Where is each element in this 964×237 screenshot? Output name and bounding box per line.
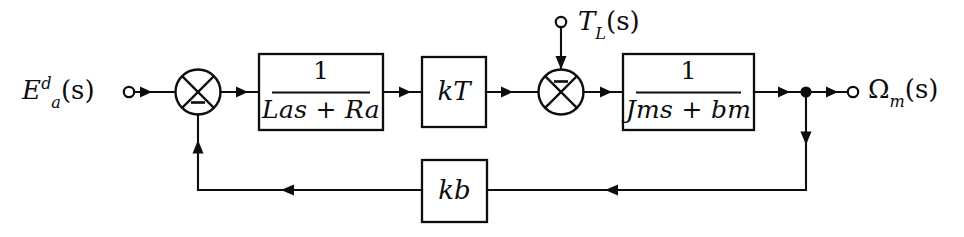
load-torque-base: T	[578, 6, 595, 36]
torque-constant-block-label: kT	[422, 78, 486, 104]
mechanical-block-denominator: Jms + bm	[623, 97, 754, 122]
input-terminal-armature-voltage	[124, 87, 134, 97]
electrical-block-numerator: 1	[259, 58, 383, 83]
arrowhead-feedback-right-segment	[605, 185, 618, 196]
output-label-arg: (s)	[905, 74, 939, 104]
input-label-superscript: d	[41, 74, 51, 93]
mechanical-den-term2: b	[711, 95, 727, 124]
block-diagram: Eda(s) TL(s) Ωm(s) 1 Las + Ra kT 1 Jms +…	[0, 0, 964, 237]
kt-subscript: T	[453, 76, 470, 106]
electrical-den-sub1: a	[279, 95, 294, 124]
electrical-den-term2: R	[345, 95, 365, 124]
input-label-subscript: a	[51, 93, 61, 112]
arrowhead-load-torque-to-summer2	[556, 56, 567, 70]
output-terminal-motor-speed	[848, 87, 858, 97]
arrowhead-takeoff-to-output	[826, 87, 838, 98]
electrical-den-mid: s +	[294, 95, 345, 124]
load-torque-subscript: L	[595, 24, 606, 43]
kt-base: k	[437, 76, 453, 106]
kb-base: k	[438, 175, 454, 205]
arrowhead-electrical-to-kt	[399, 87, 411, 98]
electrical-block-denominator: Las + Ra	[259, 97, 383, 122]
output-label-motor-speed: Ωm(s)	[868, 76, 938, 107]
input-label-armature-voltage: Eda(s)	[22, 76, 95, 108]
input-terminal-load-torque	[556, 17, 566, 27]
mechanical-den-term1: J	[626, 95, 636, 124]
arrowhead-takeoff-drop	[801, 132, 812, 146]
kb-subscript: b	[454, 175, 471, 205]
mechanical-den-sub2: m	[727, 95, 751, 124]
arrowhead-mechanical-to-takeoff	[778, 87, 790, 98]
arrowhead-feedback-left-segment	[281, 185, 294, 196]
output-label-subscript: m	[890, 92, 905, 111]
output-label-base: Ω	[868, 74, 890, 104]
arrowhead-summer2-to-mechanical-block	[600, 87, 612, 98]
arrowhead-feedback-rise-to-summer1	[193, 140, 204, 154]
mechanical-den-mid: s +	[660, 95, 711, 124]
mechanical-den-sub1: m	[636, 95, 660, 124]
arrowhead-summer1-to-electrical-block	[236, 87, 248, 98]
back-emf-block-label: kb	[422, 177, 487, 203]
input-label-load-torque: TL(s)	[578, 8, 640, 39]
input-label-arg: (s)	[61, 75, 95, 105]
arrowhead-kt-to-summer2	[501, 87, 513, 98]
mechanical-block-numerator: 1	[623, 58, 754, 83]
electrical-den-term1: L	[262, 95, 279, 124]
electrical-den-sub2: a	[365, 95, 380, 124]
arrowhead-input-to-summer1	[140, 87, 152, 98]
mechanical-block-label: 1 Jms + bm	[623, 58, 754, 122]
input-label-base: E	[22, 75, 41, 105]
electrical-block-label: 1 Las + Ra	[259, 58, 383, 122]
load-torque-arg: (s)	[606, 6, 640, 36]
